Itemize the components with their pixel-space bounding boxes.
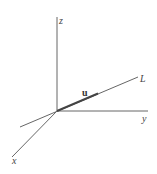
diagram-canvas: z y x L u (0, 0, 157, 174)
x-axis (12, 111, 57, 157)
vector-u (57, 94, 98, 112)
y-axis-label: y (141, 113, 147, 124)
vector-u-label: u (82, 87, 88, 98)
x-axis-label: x (11, 155, 17, 166)
line-l-label: L (139, 73, 146, 84)
z-axis-label: z (58, 15, 63, 26)
